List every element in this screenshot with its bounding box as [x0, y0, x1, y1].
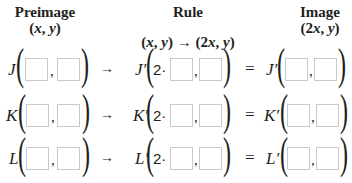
row-k: K ( , ) → K′ ( 2· , ) = K′ ( , ) [0, 96, 352, 138]
image-point-label: K′ [264, 106, 279, 126]
rule-y-input[interactable] [199, 147, 222, 170]
rule-title: Rule [128, 4, 248, 20]
arrow-icon: → [100, 150, 114, 166]
open-paren: ( [277, 43, 285, 87]
close-paren: ) [340, 89, 348, 133]
rule-x-input[interactable] [170, 104, 193, 127]
close-paren: ) [338, 43, 346, 87]
equals-sign: = [245, 59, 255, 79]
close-paren: ) [82, 89, 90, 133]
preimage-y-input[interactable] [57, 147, 80, 170]
arrow-icon: → [100, 107, 114, 123]
comma: , [50, 63, 54, 80]
preimage-title: Preimage [5, 4, 85, 20]
comma: , [311, 152, 315, 169]
preimage-point-label: J [8, 60, 16, 80]
multiplier: 2· [153, 107, 166, 124]
multiplier: 2· [153, 150, 166, 167]
rule-y-input[interactable] [199, 58, 222, 81]
open-paren: ( [16, 43, 24, 87]
image-title: Image [290, 4, 350, 20]
preimage-y-input[interactable] [57, 104, 80, 127]
preimage-x-input[interactable] [26, 147, 49, 170]
close-paren: ) [223, 132, 231, 176]
open-paren: ( [18, 132, 26, 176]
rule-y-input[interactable] [199, 104, 222, 127]
preimage-point-label: K [6, 106, 17, 126]
preimage-x-input[interactable] [25, 58, 48, 81]
close-paren: ) [82, 132, 90, 176]
image-header: Image (2x, y) [290, 4, 350, 36]
close-paren: ) [340, 132, 348, 176]
close-paren: ) [223, 89, 231, 133]
image-x-input[interactable] [287, 104, 310, 127]
comma: , [51, 152, 55, 169]
comma: , [51, 109, 55, 126]
preimage-formula: (x, y) [5, 20, 85, 36]
comma: , [309, 63, 313, 80]
image-point-label: L′ [266, 149, 279, 169]
image-x-input[interactable] [287, 147, 310, 170]
rule-x-input[interactable] [170, 58, 193, 81]
rule-x-input[interactable] [170, 147, 193, 170]
image-y-input[interactable] [316, 104, 339, 127]
image-y-input[interactable] [316, 147, 339, 170]
row-l: L ( , ) → L′ ( 2· , ) = L′ ( , ) [0, 139, 352, 181]
image-x-input[interactable] [285, 58, 308, 81]
comma: , [194, 63, 198, 80]
row-j: J ( , ) → J′ ( 2· , ) = J′ ( , ) [0, 50, 352, 92]
equals-sign: = [245, 148, 255, 168]
arrow-icon: → [100, 61, 114, 77]
open-paren: ( [18, 89, 26, 133]
preimage-y-input[interactable] [57, 58, 80, 81]
multiplier: 2· [153, 61, 166, 78]
image-y-input[interactable] [314, 58, 337, 81]
close-paren: ) [81, 43, 89, 87]
comma: , [194, 109, 198, 126]
image-formula: (2x, y) [290, 20, 350, 36]
preimage-x-input[interactable] [26, 104, 49, 127]
image-point-label: J′ [266, 60, 277, 80]
preimage-header: Preimage (x, y) [5, 4, 85, 36]
comma: , [311, 109, 315, 126]
comma: , [194, 152, 198, 169]
rule-point-label: J′ [135, 60, 146, 80]
equals-sign: = [245, 105, 255, 125]
close-paren: ) [223, 43, 231, 87]
